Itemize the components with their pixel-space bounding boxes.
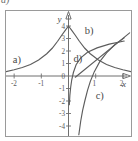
y-tick-label: -3	[59, 110, 65, 118]
y-tick-label: -2	[59, 98, 65, 106]
y-tick-label: -1	[59, 85, 65, 93]
y-tick-label: 1	[61, 60, 65, 68]
coordinate-plot: -2-112 43210-1-2-3-4 a)b)c)d) x y	[6, 11, 131, 136]
y-tick-label: 2	[61, 48, 65, 56]
x-axis-label: x	[121, 79, 126, 89]
curve-label-d: d)	[73, 53, 82, 65]
curve-label-c: c)	[96, 90, 105, 102]
x-tick-label: -2	[11, 80, 17, 88]
y-axis-ticks: 43210-1-2-3-4	[59, 23, 71, 131]
curve-c	[79, 38, 124, 135]
y-tick-label: 0	[61, 73, 65, 81]
curve-label-b: b)	[85, 25, 94, 37]
figure-container: d) -2-112 43210-1-2-3-4 a)b)c)d) x y	[0, 0, 138, 141]
y-tick-label: 4	[61, 23, 65, 31]
curve-label-a: a)	[13, 54, 22, 66]
curve-b	[69, 26, 132, 72]
figure-corner-tag: d)	[1, 0, 9, 5]
y-axis-label: y	[57, 14, 62, 24]
x-tick-label: 1	[92, 80, 96, 88]
y-tick-label: -4	[59, 123, 65, 131]
x-tick-label: -1	[38, 80, 44, 88]
plot-frame: -2-112 43210-1-2-3-4 a)b)c)d) x y	[5, 10, 132, 137]
y-axis	[66, 12, 71, 137]
y-tick-label: 3	[61, 35, 65, 43]
